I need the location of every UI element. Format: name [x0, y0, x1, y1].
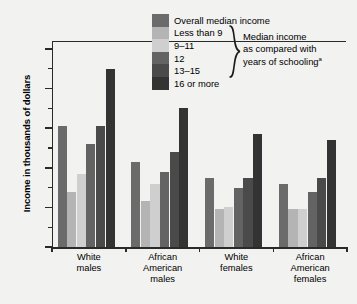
legend-swatch — [152, 14, 169, 27]
bar — [288, 209, 297, 247]
y-tick-major — [45, 167, 52, 169]
bar — [224, 207, 233, 247]
bar — [298, 209, 307, 247]
legend-label: 12 — [174, 53, 184, 64]
x-group-label-line: White — [194, 252, 278, 263]
x-group-label: AfricanAmericanmales — [121, 252, 205, 286]
y-tick-major — [45, 88, 52, 90]
legend-brace-icon — [228, 25, 242, 78]
bar — [327, 140, 336, 247]
bar — [160, 172, 169, 247]
legend-swatch — [152, 39, 169, 52]
bar — [150, 184, 159, 247]
bar — [179, 108, 188, 247]
y-tick-major — [45, 48, 52, 50]
legend-note-line3-text: years of schooling — [243, 56, 319, 67]
x-group-label-line: American — [121, 263, 205, 274]
bar — [96, 126, 105, 247]
bar — [170, 152, 179, 247]
bar — [67, 192, 76, 247]
bar — [131, 162, 140, 247]
bar — [141, 201, 150, 247]
legend-note-line1: Median income — [243, 31, 322, 43]
legend-swatch — [152, 64, 169, 77]
y-axis-title: Income in thousands of dollars — [21, 54, 32, 234]
y-tick-major — [45, 127, 52, 129]
legend-label: 9–11 — [174, 40, 194, 51]
x-group-label-line: females — [268, 274, 352, 285]
x-group-label-line: males — [47, 263, 131, 274]
legend-note-line3: years of schoolinga — [243, 54, 322, 68]
legend-row: 16 or more — [152, 77, 270, 90]
x-group-label-line: American — [268, 263, 352, 274]
y-tick-major — [45, 207, 52, 209]
x-group-label-line: African — [121, 252, 205, 263]
bar — [253, 134, 262, 247]
x-group-label: Whitefemales — [194, 252, 278, 274]
legend-swatch — [152, 52, 169, 65]
bar — [205, 178, 214, 247]
legend-note-superscript: a — [319, 56, 322, 62]
x-group-label-line: African — [268, 252, 352, 263]
bar — [243, 178, 252, 247]
legend-note: Median income as compared with years of … — [243, 31, 322, 68]
legend-label: 16 or more — [174, 78, 219, 89]
bar — [215, 209, 224, 247]
bar — [58, 126, 67, 247]
bar — [77, 174, 86, 247]
x-group-label-line: White — [47, 252, 131, 263]
x-group-label-line: males — [121, 274, 205, 285]
income-by-education-bar-chart: Income in thousands of dollars $50403020… — [0, 0, 357, 304]
x-group-label: Whitemales — [47, 252, 131, 274]
legend-swatch — [152, 77, 169, 90]
legend-label: Overall median income — [174, 15, 270, 26]
bar — [234, 188, 243, 247]
x-group-label-line: females — [194, 263, 278, 274]
legend-swatch — [152, 27, 169, 40]
legend-note-line2: as compared with — [243, 43, 322, 55]
bar — [308, 192, 317, 247]
legend-label: Less than 9 — [174, 27, 222, 38]
legend-label: 13–15 — [174, 65, 200, 76]
bar — [86, 144, 95, 247]
bar — [317, 178, 326, 247]
legend-row: Overall median income — [152, 14, 270, 27]
x-group-label: AfricanAmericanfemales — [268, 252, 352, 286]
bar — [106, 69, 115, 247]
bar — [279, 184, 288, 247]
